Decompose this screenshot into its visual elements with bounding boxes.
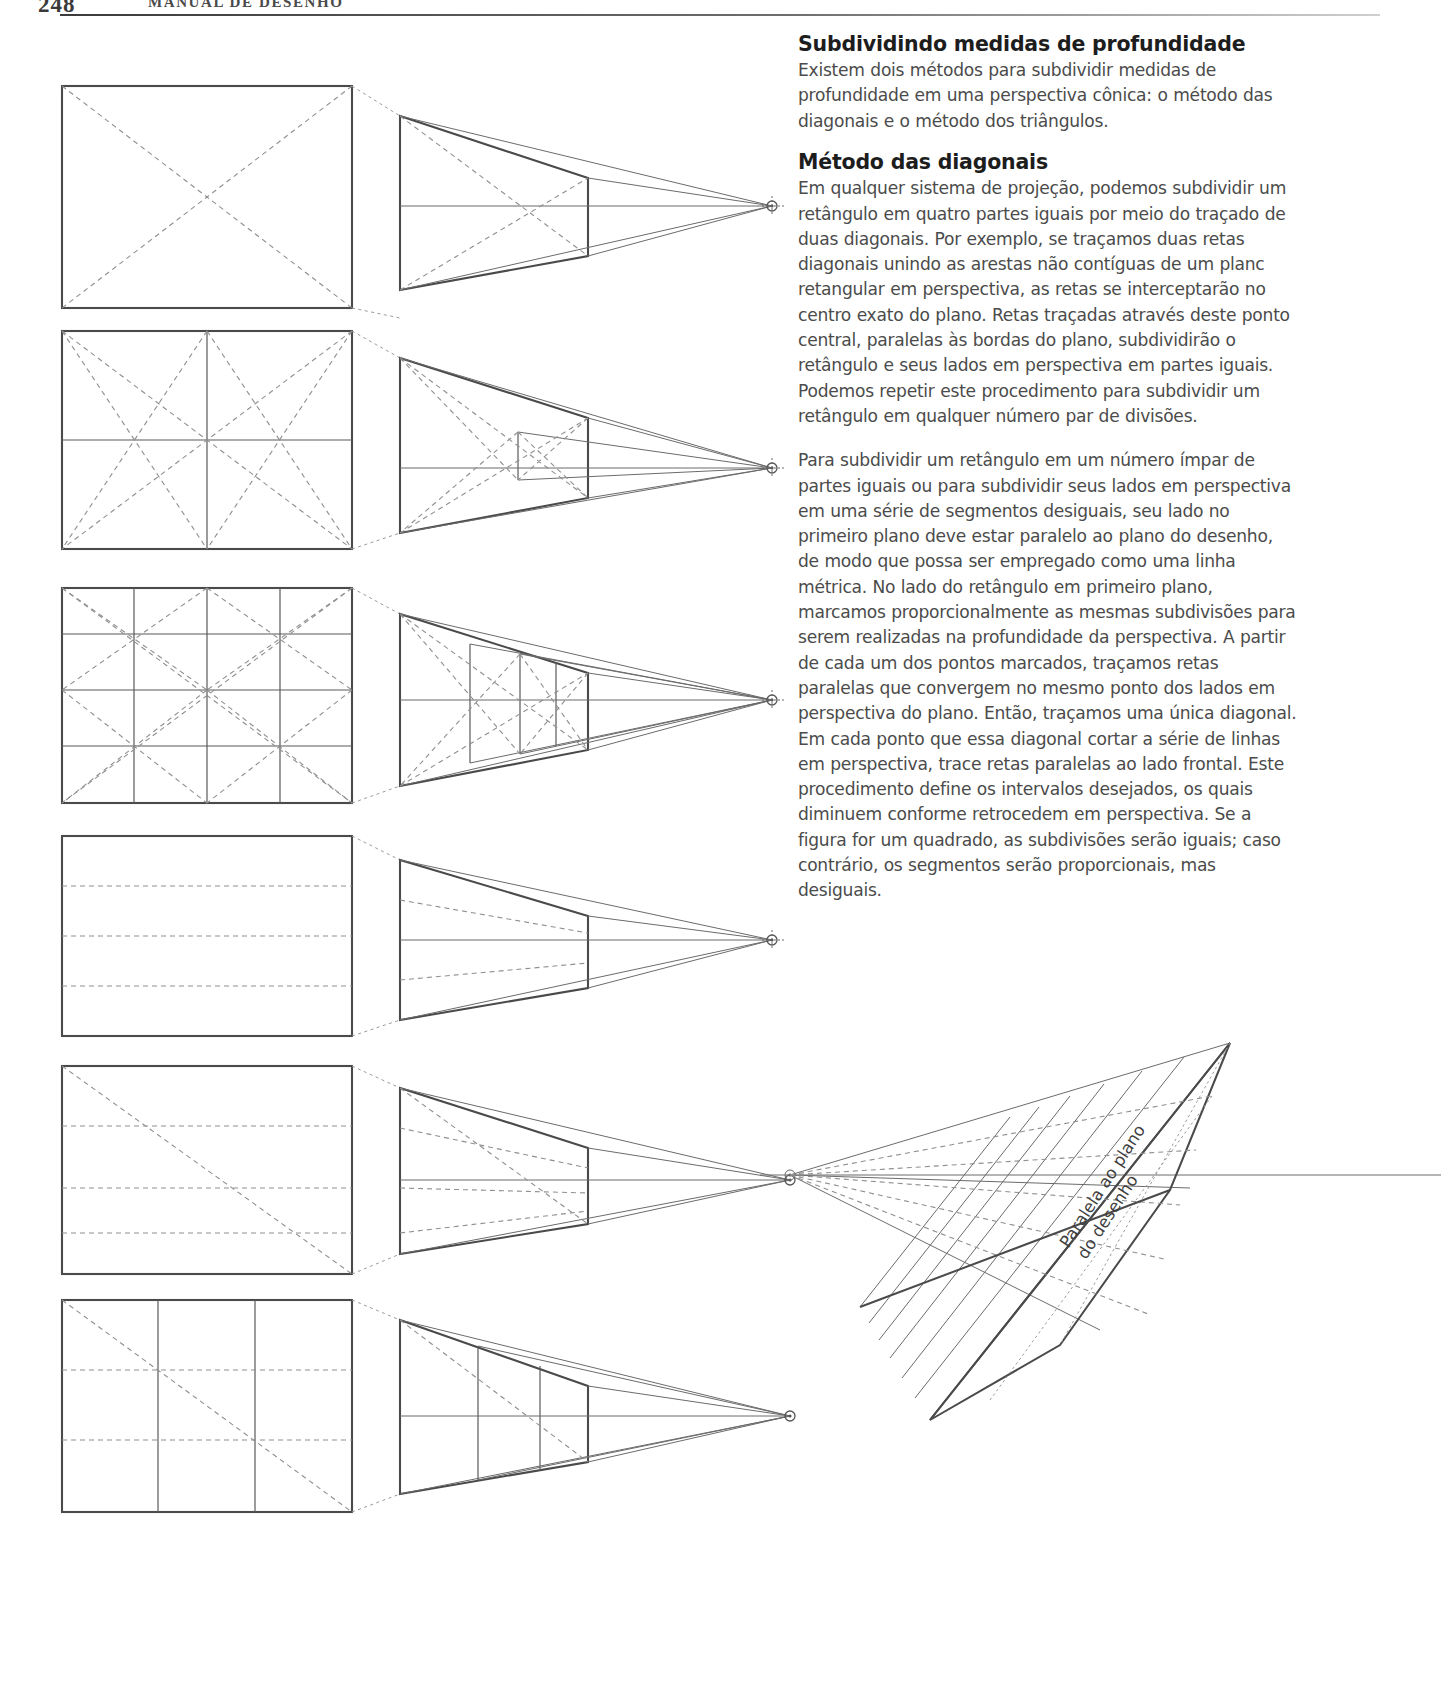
figure-row-1 [62, 86, 786, 318]
section-intro-paragraph: Existem dois métodos para subdividir med… [798, 58, 1298, 134]
figure-row-3 [62, 588, 786, 803]
running-head-title: MANUAL DE DESENHO [148, 0, 344, 11]
figure-row-5 [62, 1066, 795, 1274]
text-column: Subdividindo medidas de profundidade Exi… [798, 32, 1298, 904]
section-title-diagonals-method: Método das diagonais [798, 150, 1298, 174]
page-header: 248 MANUAL DE DESENHO [0, 0, 1441, 30]
figure-row-4 [62, 836, 786, 1036]
perspective-grid-figure: .gs { fill:none; stroke:#4a4a4a; stroke-… [760, 1000, 1441, 1460]
header-rule [60, 14, 1380, 16]
figure-row-6 [62, 1300, 795, 1512]
figure-panel: .s { fill:none; stroke:#4a4a4a; stroke-w… [0, 28, 800, 1688]
body-paragraph-1: Em qualquer sistema de projeção, podemos… [798, 176, 1298, 429]
section-title-subdividing-depth: Subdividindo medidas de profundidade [798, 32, 1298, 56]
perspective-diagrams: .s { fill:none; stroke:#4a4a4a; stroke-w… [0, 28, 800, 1688]
body-paragraph-2: Para subdividir um retângulo em um númer… [798, 448, 1298, 903]
figure-row-2 [62, 331, 786, 549]
